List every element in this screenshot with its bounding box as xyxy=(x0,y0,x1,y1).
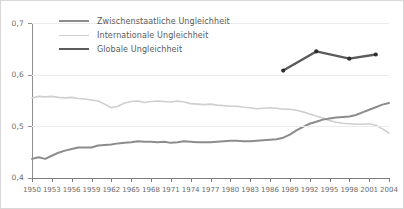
x-tick-mark xyxy=(211,178,212,182)
legend-item-label: Globale Ungleichheit xyxy=(97,45,182,54)
series-line-zwischenstaatliche xyxy=(32,103,389,159)
x-tick-mark xyxy=(52,178,53,182)
data-point-marker xyxy=(281,68,285,72)
data-point-marker xyxy=(374,52,378,56)
x-tick-mark xyxy=(250,178,251,182)
x-tick-mark xyxy=(349,178,350,182)
x-tick-mark xyxy=(389,178,390,182)
x-tick-mark xyxy=(310,178,311,182)
legend-item-zwischenstaatliche: Zwischenstaatliche Ungleichheit xyxy=(59,14,289,28)
x-tick-mark xyxy=(92,178,93,182)
legend-item-label: Internationale Ungleichheit xyxy=(97,31,208,40)
line-swatch-icon xyxy=(59,48,89,50)
x-tick-mark xyxy=(270,178,271,182)
data-point-marker xyxy=(314,49,318,53)
x-tick-mark xyxy=(290,178,291,182)
gridline xyxy=(32,75,389,76)
data-point-marker xyxy=(347,57,351,61)
x-tick-mark xyxy=(32,178,33,182)
x-tick-mark xyxy=(369,178,370,182)
line-swatch-icon xyxy=(59,35,89,36)
series-markers-globale xyxy=(281,49,378,72)
series-line-internationale xyxy=(32,96,389,133)
x-tick-mark xyxy=(191,178,192,182)
y-tick-label: 0,5 xyxy=(0,122,24,131)
legend-item-globale: Globale Ungleichheit xyxy=(59,42,289,56)
line-swatch-icon xyxy=(59,20,89,22)
y-tick-label: 0,7 xyxy=(0,19,24,28)
x-tick-label: 2004 xyxy=(376,186,402,194)
x-tick-mark xyxy=(330,178,331,182)
series-line-globale xyxy=(283,51,376,70)
x-tick-mark xyxy=(111,178,112,182)
gridline xyxy=(32,126,389,127)
chart-figure: 0,7 0,6 0,5 0,4 195019531956195919621965… xyxy=(0,0,404,209)
legend-item-internationale: Internationale Ungleichheit xyxy=(59,28,289,42)
legend-item-label: Zwischenstaatliche Ungleichheit xyxy=(97,17,230,26)
x-tick-mark xyxy=(131,178,132,182)
x-tick-mark xyxy=(151,178,152,182)
y-tick-label: 0,4 xyxy=(0,173,24,182)
x-tick-mark xyxy=(72,178,73,182)
y-tick-label: 0,6 xyxy=(0,70,24,79)
chart-legend: Zwischenstaatliche Ungleichheit Internat… xyxy=(59,14,289,56)
x-tick-mark xyxy=(171,178,172,182)
x-tick-mark xyxy=(230,178,231,182)
